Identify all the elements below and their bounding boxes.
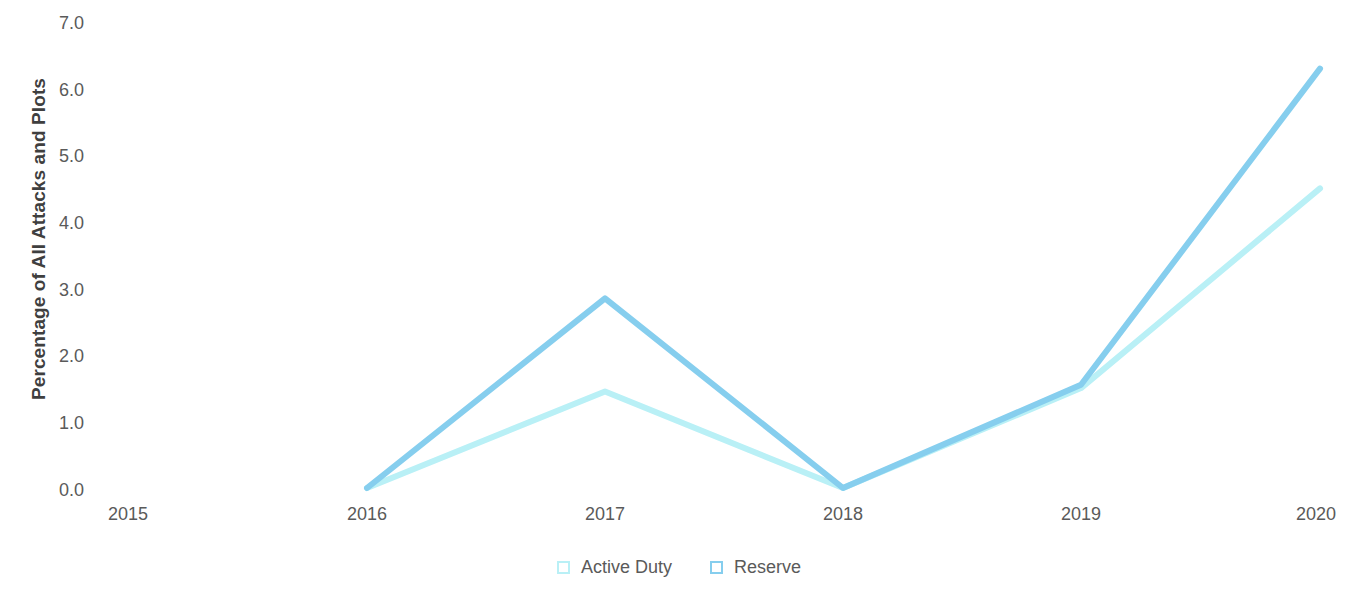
legend-label-active-duty: Active Duty [581,558,672,576]
x-axis-tick-label: 2020 [1256,505,1358,523]
line-chart: Percentage of All Attacks and Plots 7.0 … [0,0,1358,592]
y-axis-tick-label: 5.0 [38,147,84,165]
y-axis-tick-label: 1.0 [38,414,84,432]
y-axis-tick-label: 7.0 [38,14,84,32]
chart-legend: Active Duty Reserve [0,558,1358,576]
series-line-active-duty [367,188,1320,488]
y-axis-tick-label: 0.0 [38,481,84,499]
x-axis-tick-label: 2017 [545,505,665,523]
y-axis-tick-label: 4.0 [38,214,84,232]
y-axis-tick-label: 6.0 [38,81,84,99]
legend-item-reserve[interactable]: Reserve [710,558,801,576]
y-axis-tick-labels: 7.0 6.0 5.0 4.0 3.0 2.0 1.0 0.0 [30,0,84,592]
x-axis-tick-label: 2016 [307,505,427,523]
x-axis-tick-label: 2019 [1021,505,1141,523]
series-line-reserve [367,69,1320,488]
plot-svg [92,0,1358,510]
y-axis-tick-label: 2.0 [38,347,84,365]
x-axis-tick-label: 2015 [68,505,188,523]
legend-item-active-duty[interactable]: Active Duty [557,558,672,576]
legend-label-reserve: Reserve [734,558,801,576]
legend-swatch-active-duty-icon [557,561,570,574]
plot-area [92,0,1358,510]
legend-swatch-reserve-icon [710,561,723,574]
x-axis-tick-label: 2018 [783,505,903,523]
x-axis-tick-labels: 2015 2016 2017 2018 2019 2020 [0,505,1358,539]
y-axis-tick-label: 3.0 [38,281,84,299]
